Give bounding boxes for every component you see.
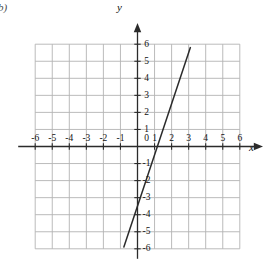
y-tick-label--4: -4	[139, 209, 155, 219]
coordinate-plane-figure: b) y x -6-5-4-3-2-1123456654321-1-2-3-4-…	[0, 0, 264, 260]
y-tick-label--5: -5	[139, 226, 155, 236]
y-tick-label--1: -1	[139, 158, 155, 168]
y-tick-label--3: -3	[139, 192, 155, 202]
x-tick-label-4: 4	[198, 133, 214, 143]
graph-canvas	[0, 0, 264, 260]
x-tick-label-3: 3	[181, 133, 197, 143]
x-tick-label--2: -2	[95, 133, 111, 143]
x-tick-label--5: -5	[44, 133, 60, 143]
x-tick-label-5: 5	[215, 133, 231, 143]
x-tick-label--4: -4	[61, 133, 77, 143]
x-tick-label--6: -6	[27, 133, 43, 143]
y-tick-label-4: 4	[139, 73, 155, 83]
y-tick-label--6: -6	[139, 243, 155, 253]
x-tick-label--3: -3	[78, 133, 94, 143]
origin-label: 0	[139, 133, 155, 143]
plotted-line	[124, 48, 190, 247]
x-tick-label--1: -1	[112, 133, 128, 143]
y-tick-label-2: 2	[139, 107, 155, 117]
y-tick-label--2: -2	[139, 175, 155, 185]
x-tick-label-6: 6	[232, 133, 248, 143]
y-tick-label-6: 6	[139, 39, 155, 49]
y-tick-label-3: 3	[139, 90, 155, 100]
x-tick-label-2: 2	[164, 133, 180, 143]
y-tick-label-5: 5	[139, 56, 155, 66]
